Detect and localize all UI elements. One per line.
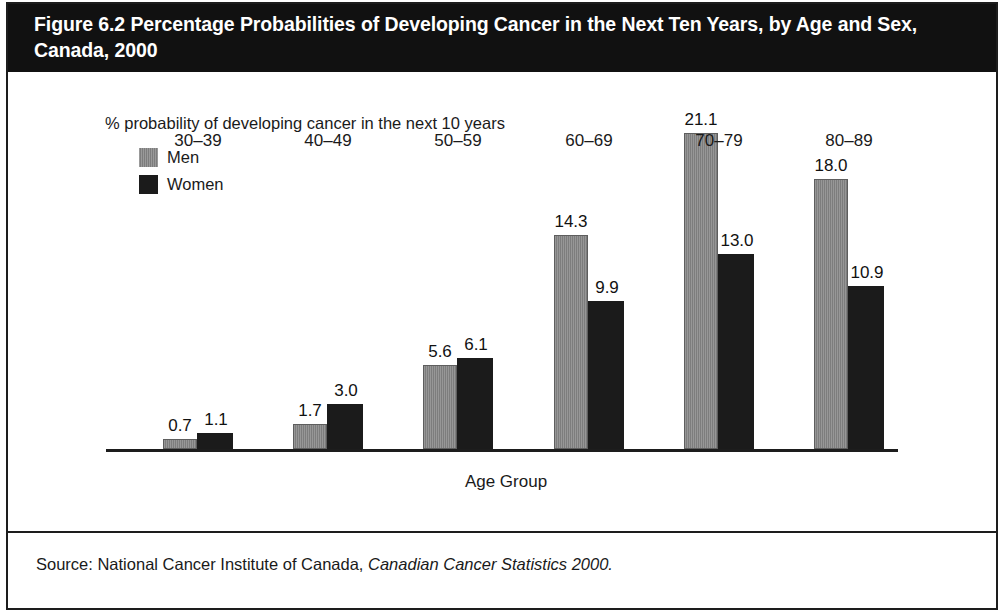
plot-area: 0.7 1.1 30–39 1.7 3.0 40–49 5.6 6.1 50–5…: [106, 102, 906, 452]
figure-container: Figure 6.2 Percentage Probabilities of D…: [0, 0, 1004, 616]
source-note: Source: National Cancer Institute of Can…: [36, 555, 613, 574]
bar-women-30-39: [197, 433, 233, 450]
bar-women-70-79: [718, 254, 754, 449]
footer-divider: [8, 531, 996, 533]
bar-value-men-80-89: 18.0: [810, 156, 852, 176]
figure-body: % probability of developing cancer in th…: [8, 72, 996, 608]
x-axis-line: [106, 449, 898, 452]
x-tick-label-70-79: 70–79: [662, 131, 776, 151]
bar-men-80-89: [814, 179, 848, 449]
figure-title: Figure 6.2 Percentage Probabilities of D…: [34, 11, 984, 63]
bar-value-men-60-69: 14.3: [550, 212, 592, 232]
x-tick-label-50-59: 50–59: [401, 131, 515, 151]
source-prefix: Source: National Cancer Institute of Can…: [36, 555, 368, 573]
bar-women-80-89: [848, 286, 884, 450]
bar-value-women-50-59: 6.1: [455, 335, 497, 355]
bar-women-40-49: [327, 404, 363, 449]
bar-value-women-40-49: 3.0: [325, 381, 367, 401]
bar-value-women-60-69: 9.9: [586, 278, 628, 298]
x-tick-label-30-39: 30–39: [141, 131, 255, 151]
bar-value-men-70-79: 21.1: [680, 110, 722, 130]
bar-value-women-70-79: 13.0: [716, 231, 758, 251]
bar-women-60-69: [588, 301, 624, 450]
bar-value-women-30-39: 1.1: [195, 410, 237, 430]
source-publication: Canadian Cancer Statistics 2000.: [368, 555, 613, 573]
bar-value-women-80-89: 10.9: [846, 263, 888, 283]
x-axis-title: Age Group: [106, 472, 906, 492]
bar-men-30-39: [163, 439, 197, 450]
x-tick-label-80-89: 80–89: [792, 131, 906, 151]
bar-men-60-69: [554, 235, 588, 450]
bar-women-50-59: [457, 358, 493, 450]
bar-men-50-59: [423, 365, 457, 449]
bar-men-40-49: [293, 424, 327, 450]
bar-men-70-79: [684, 133, 718, 450]
bar-value-men-40-49: 1.7: [289, 401, 331, 421]
figure-title-band: Figure 6.2 Percentage Probabilities of D…: [8, 4, 996, 72]
x-tick-label-40-49: 40–49: [271, 131, 385, 151]
x-tick-label-60-69: 60–69: [532, 131, 646, 151]
